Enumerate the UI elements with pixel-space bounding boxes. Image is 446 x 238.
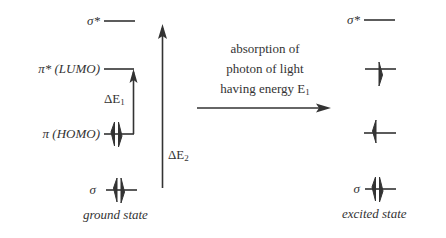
ground-pi-star-label: π* (LUMO) [10,62,100,76]
excited-pi-star-electron-down-icon [379,62,383,86]
ground-pi-label: π (HOMO) [10,127,100,141]
diagram-graphics [0,0,446,238]
ground-sigma-label: σ [52,183,96,197]
process-line-3: having energy E1 [196,82,334,99]
excited-sigma-label: σ [320,182,360,196]
mo-energy-diagram: σ* π* (LUMO) π (HOMO) σ ΔE1 ΔE2 ground s… [0,0,446,238]
excited-pi-electron-up-icon [373,120,377,143]
delta-e2-label-main: ΔE [168,147,184,162]
delta-e1-label: ΔE1 [104,92,125,109]
ground-state-caption: ground state [83,208,148,222]
delta-e1-label-sub: 1 [120,97,125,107]
process-line-3-main: having energy E [220,81,305,96]
process-line-1: absorption of [196,42,334,56]
process-line-3-sub: 1 [305,87,310,97]
delta-e1-label-main: ΔE [104,91,120,106]
delta-e2-label: ΔE2 [168,148,189,165]
excited-sigma-star-label: σ* [320,13,360,27]
excited-state-caption: excited state [342,207,407,221]
ground-sigma-star-label: σ* [52,14,100,28]
delta-e2-label-sub: 2 [184,153,189,163]
process-line-2: photon of light [196,62,334,76]
